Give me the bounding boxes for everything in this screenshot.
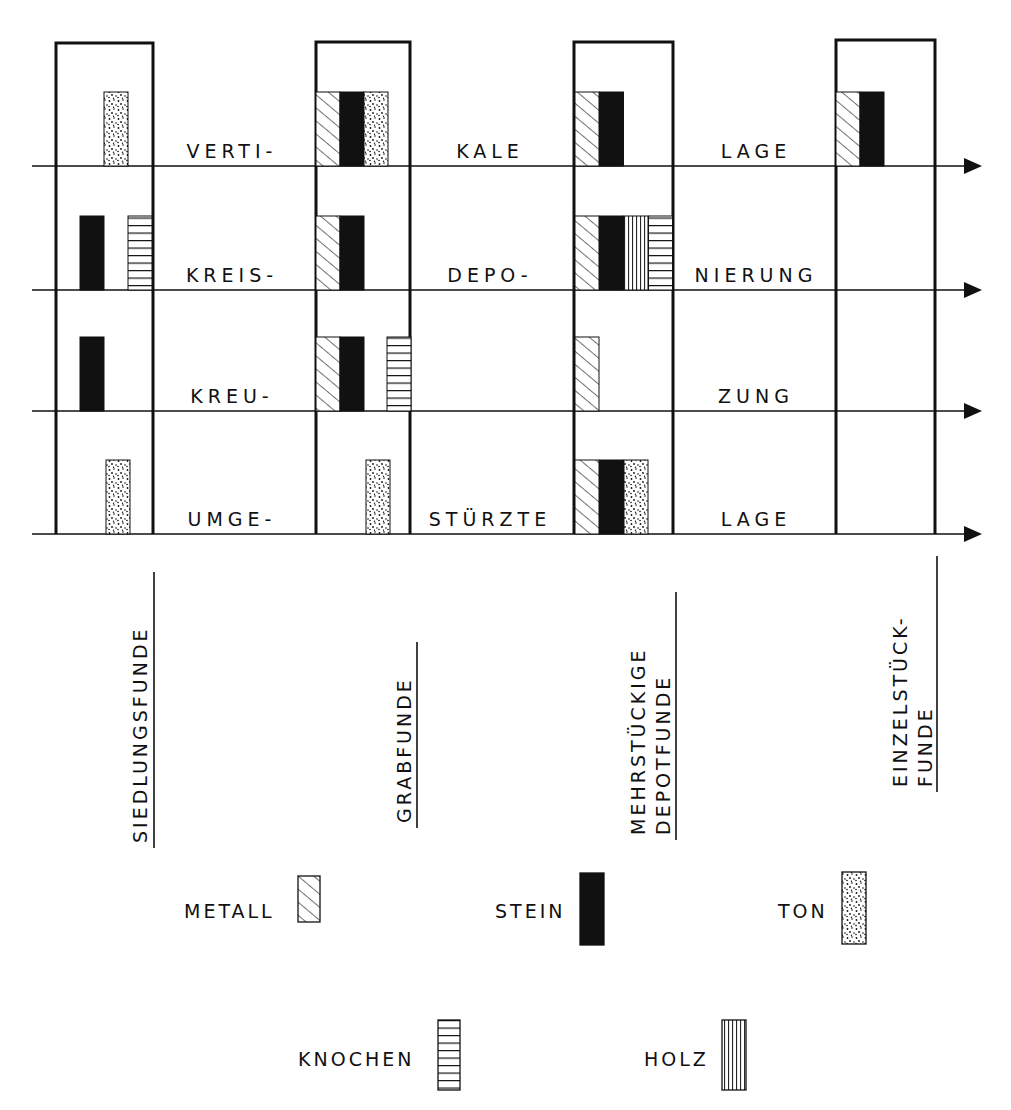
legend-item-metall: METALL [184, 876, 320, 922]
arrow-right-icon [964, 158, 982, 174]
bar-ton [364, 92, 388, 166]
bar-metall [575, 92, 599, 166]
bar-stein [340, 216, 364, 290]
bar-metall [316, 216, 340, 290]
bar-ton [104, 92, 128, 166]
category-label-siedlung: SIEDLUNGSFUNDE [129, 626, 151, 843]
bar-stein [860, 92, 884, 166]
bar-stein [80, 216, 104, 290]
category-label-grab: GRABFUNDE [393, 677, 415, 823]
legend-swatch-ton [842, 872, 866, 944]
legend-item-knochen: KNOCHEN [298, 1020, 460, 1090]
arrow-right-icon [964, 403, 982, 419]
bar-holz [624, 216, 648, 290]
row-label-umgestuerzte_lage-1: STÜRZTE [429, 508, 551, 530]
legend-item-ton: TON [777, 872, 866, 944]
category-label-einzel: FUNDE [914, 706, 936, 787]
bar-knochen [387, 337, 411, 411]
bar-metall [836, 92, 860, 166]
row-label-vertikale_lage-0: VERTI- [187, 140, 278, 162]
bar-knochen [649, 216, 673, 290]
category-label-depot: DEPOTFUNDE [652, 675, 674, 835]
legend-label: HOLZ [644, 1048, 709, 1070]
row-label-umgestuerzte_lage-0: UMGE- [188, 508, 277, 530]
find-type-diagram: VERTI-KALELAGEKREIS-DEPO-NIERUNGKREU-ZUN… [0, 0, 1011, 1110]
legend-label: METALL [184, 900, 275, 922]
legend-swatch-metall [298, 876, 320, 922]
legend: METALLSTEINTONKNOCHENHOLZ [184, 872, 866, 1090]
row-label-kreisdeponierung-1: DEPO- [447, 264, 532, 286]
bar-stein [600, 92, 624, 166]
row-label-vertikale_lage-1: KALE [456, 140, 524, 162]
bar-ton [366, 460, 390, 534]
labels-layer: VERTI-KALELAGEKREIS-DEPO-NIERUNGKREU-ZUN… [129, 140, 937, 848]
legend-label: TON [777, 900, 828, 922]
bar-metall [575, 216, 599, 290]
bar-ton [624, 460, 648, 534]
row-label-kreisdeponierung-2: NIERUNG [695, 264, 818, 286]
legend-swatch-knochen [438, 1020, 460, 1090]
bar-metall [575, 460, 599, 534]
arrow-right-icon [964, 282, 982, 298]
row-label-vertikale_lage-2: LAGE [721, 140, 791, 162]
category-label-einzel: EINZELSTÜCK- [889, 615, 911, 787]
row-label-umgestuerzte_lage-2: LAGE [721, 508, 791, 530]
legend-label: KNOCHEN [298, 1048, 414, 1070]
legend-item-stein: STEIN [495, 873, 604, 945]
row-label-kreisdeponierung-0: KREIS- [186, 264, 278, 286]
row-label-kreuzung-2: ZUNG [718, 385, 794, 407]
bar-stein [340, 92, 364, 166]
row-label-kreuzung-0: KREU- [190, 385, 273, 407]
bar-metall [316, 337, 340, 411]
bar-stein [600, 460, 624, 534]
arrow-right-icon [964, 526, 982, 542]
bar-stein [600, 216, 624, 290]
bar-stein [340, 337, 364, 411]
bar-metall [316, 92, 340, 166]
category-label-depot: MEHRSTÜCKIGE [627, 647, 649, 835]
bar-stein [80, 337, 104, 411]
legend-item-holz: HOLZ [644, 1020, 746, 1090]
bar-ton [106, 460, 130, 534]
legend-swatch-holz [722, 1020, 746, 1090]
legend-swatch-stein [580, 873, 604, 945]
bar-metall [575, 337, 599, 411]
legend-label: STEIN [495, 900, 566, 922]
bar-knochen [128, 216, 152, 290]
